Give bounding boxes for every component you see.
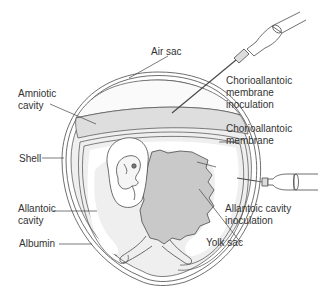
label-allantoic-inoculation: Allantoic cavity inoculation [225,203,291,227]
label-air-sac: Air sac [151,46,182,58]
label-cam: Chorioallantoic membrane [226,123,292,147]
label-yolk-sac: Yolk sac [206,237,243,249]
label-allantoic-cavity: Allantoic cavity [18,203,56,227]
label-shell: Shell [19,153,41,165]
egg-inoculation-diagram: Air sac Amniotic cavity Shell Allantoic … [0,0,320,295]
label-amniotic-cavity: Amniotic cavity [18,88,56,112]
label-cam-inoculation: Chorioallantoic membrane inoculation [226,75,292,111]
label-albumin: Albumin [19,238,55,250]
egg-illustration [0,0,320,295]
